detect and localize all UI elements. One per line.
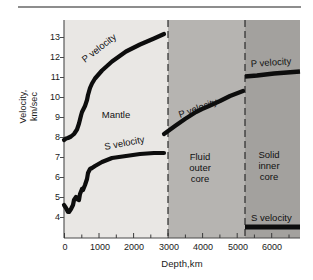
plot-canvas: P velocity S velocity P velocity P veloc… [0,0,313,280]
region-label-outer-core-line2: outer [189,162,211,173]
region-label-mantle: Mantle [102,109,131,120]
label-inner-core-s-velocity: S velocity [251,212,292,223]
seismic-velocity-figure: Velocity, km/sec 13 12 11 10 9 8 7 6 5 4… [0,0,313,280]
region-label-inner-core-line3: core [260,171,278,182]
region-outer-core-bg [168,20,245,238]
region-label-outer-core-line1: Fluid [190,151,211,162]
y-tick-marks [60,38,64,218]
region-label-solid-inner-core: Solid inner core [258,149,279,182]
region-label-fluid-outer-core: Fluid outer core [189,151,211,184]
region-label-inner-core-line1: Solid [258,149,279,160]
region-inner-core-bg [245,20,300,238]
region-label-outer-core-line3: core [191,173,209,184]
region-label-inner-core-line2: inner [258,160,279,171]
region-mantle-bg [64,20,168,238]
